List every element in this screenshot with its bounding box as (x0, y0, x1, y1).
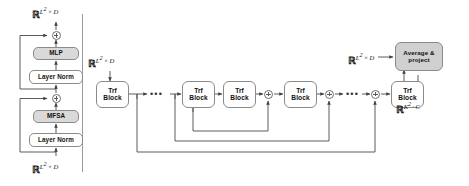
figure-canvas: ℝL2 × D MLP Layer Norm MFSA Layer Norm ℝ… (0, 0, 469, 186)
pre-head-tensor-label: ℝL2 × D (348, 51, 374, 66)
stack-input-tensor-label: ℝL2 × D (88, 54, 114, 69)
trf-block-4-label: Trf Block (291, 88, 309, 101)
ellipsis-2: ••• (346, 89, 359, 99)
trf-block-4[interactable]: Trf Block (284, 81, 317, 108)
residual-add-bottom (52, 94, 61, 103)
trf-block-3[interactable]: Trf Block (223, 81, 256, 108)
layer-norm-top-label: Layer Norm (38, 74, 74, 80)
stack-sum-3 (371, 90, 380, 99)
residual-add-top (52, 31, 61, 40)
mfsa-block[interactable]: MFSA (33, 110, 79, 123)
mlp-label: MLP (49, 50, 63, 56)
stack-output-tensor-label: ℝK2 · C (396, 100, 420, 115)
average-and-project-label: Average & project (403, 50, 434, 63)
layer-norm-bottom-block[interactable]: Layer Norm (29, 133, 83, 147)
left-input-tensor-label: ℝL2 × D (32, 160, 58, 175)
stack-sum-2 (325, 90, 334, 99)
stack-sum-1 (264, 90, 273, 99)
trf-block-1-label: Trf Block (103, 88, 121, 101)
trf-block-1[interactable]: Trf Block (96, 81, 129, 108)
mfsa-label: MFSA (47, 113, 65, 119)
panel-divider (82, 14, 83, 172)
mlp-block[interactable]: MLP (33, 47, 79, 60)
average-and-project-block[interactable]: Average & project (395, 42, 443, 71)
trf-block-3-label: Trf Block (230, 88, 248, 101)
trf-block-2-label: Trf Block (189, 88, 207, 101)
trf-block-2[interactable]: Trf Block (182, 81, 215, 108)
layer-norm-top-block[interactable]: Layer Norm (29, 70, 83, 84)
left-output-tensor-label: ℝL2 × D (32, 5, 58, 20)
ellipsis-1: ••• (150, 89, 163, 99)
layer-norm-bottom-label: Layer Norm (38, 137, 74, 143)
